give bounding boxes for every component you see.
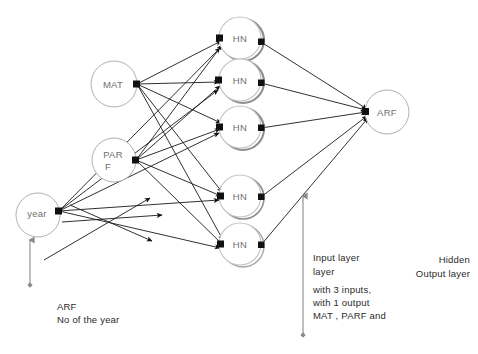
input-node-label: MAT [103,79,123,90]
edge-stub-c [70,205,152,241]
connector-dot-in [217,241,224,248]
connector-dot-out [258,242,265,249]
hidden-node-hn2[interactable]: HN [215,59,265,103]
caption-center-line5: MAT , PARF and [313,310,386,321]
diagram-canvas: HN HN HN HN [0,0,478,354]
edge-hn2-arf [261,83,366,110]
edge-mat-hn5 [137,84,223,240]
edge-year-hn3 [59,133,219,211]
edge-parf-hn3 [136,129,220,160]
edge-year-hn1 [59,48,220,211]
edge-hn3-arf [261,112,366,128]
connector-dot-out [258,80,265,87]
connector-dot-out [55,208,62,215]
hidden-node-label: HN [233,239,247,250]
hidden-layer: HN HN HN HN [215,17,265,267]
output-node-arf[interactable]: ARF [362,90,409,134]
connector-dot-out [258,39,265,46]
input-node-label-line1: PAR [103,149,123,160]
caption-right-line1: Hidden [439,254,470,265]
output-node-label: ARF [377,107,397,118]
edges-input-to-hidden [59,41,223,248]
edge-hn5-arf [261,118,368,245]
caption-center: Input layer layer with 3 inputs, with 1 … [312,252,386,321]
connector-dot-in [216,124,223,131]
hidden-node-hn3[interactable]: HN [216,106,265,150]
connector-dot-out [258,125,265,132]
edge-parf-hn4 [136,160,221,196]
edge-hn4-arf [261,116,367,197]
edges-hidden-to-output [261,42,368,245]
edge-parf-hn2 [136,86,220,160]
input-node-circle [92,138,136,182]
hidden-node-label: HN [233,75,247,86]
caption-bottom-left-line2: No of the year [57,314,119,325]
output-layer: ARF [362,90,409,134]
edge-year-hn4 [59,200,219,211]
input-node-label-line2: F [105,161,111,172]
caption-center-line3: with 3 inputs, [312,284,371,295]
connector-dot-in [216,35,223,42]
input-node-label: year [27,208,47,219]
hidden-node-hn4[interactable]: HN [217,175,265,219]
edge-year-hn2 [59,90,218,211]
input-layer: MAT PAR F year [16,61,140,237]
hidden-node-hn1[interactable]: HN [216,17,265,61]
caption-right: Hidden Output layer [416,254,470,279]
caption-center-line1: Input layer [313,252,360,263]
caption-center-line4: with 1 output [312,297,370,308]
edge-stub-b [62,215,162,222]
caption-right-line2: Output layer [416,268,470,279]
hidden-node-label: HN [233,191,247,202]
connector-dot-in [362,108,369,115]
caption-bottom-left: ARF No of the year [57,301,119,325]
hidden-node-hn5[interactable]: HN [217,223,265,267]
edge-mat-hn2 [137,82,219,84]
edge-hn1-arf [261,42,367,109]
connector-dot-out [258,194,265,201]
hidden-node-label: HN [233,33,247,44]
connector-dot-out [132,157,139,164]
caption-bottom-left-line1: ARF [57,301,77,312]
connector-dot-out [133,81,140,88]
network-diagram-svg: HN HN HN HN [0,0,478,354]
input-node-mat[interactable]: MAT [91,61,140,107]
hidden-node-label: HN [233,122,247,133]
caption-center-line2: layer [313,266,335,277]
connector-dot-in [217,193,224,200]
edge-stubs-year-region [44,198,162,260]
connector-dot-in [215,77,222,84]
edge-stub-a [44,198,150,260]
input-node-year[interactable]: year [16,193,62,237]
